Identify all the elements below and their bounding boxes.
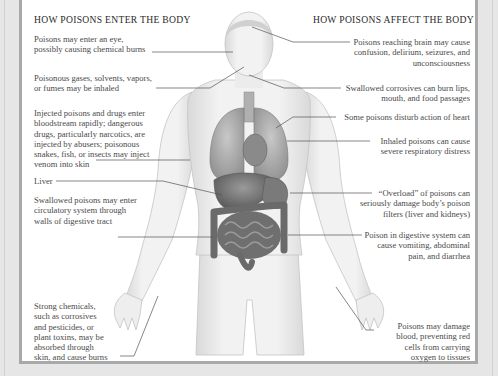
label-overload-effect: “Overload” of poisons can seriously dama…: [360, 188, 470, 219]
label-brain-effect: Poisons reaching brain may cause confusi…: [354, 37, 470, 68]
label-skin-absorption: Strong chemicals, such as corrosives and…: [34, 301, 108, 363]
label-inhaled-entry: Poisonous gases, solvents, vapors, or fu…: [34, 73, 152, 94]
heading-how-poisons-enter: HOW POISONS ENTER THE BODY: [34, 14, 191, 25]
label-swallowed-entry: Swallowed poisons may enter circulatory …: [34, 195, 137, 226]
label-digestive-effect: Poison in digestive system can cause vom…: [364, 230, 470, 261]
label-heart-effect: Some poisons disturb action of heart: [344, 112, 470, 122]
label-respiratory-effect: Inhaled poisons can cause severe respira…: [381, 136, 471, 157]
internal-organs: [210, 92, 288, 268]
heading-how-poisons-affect: HOW POISONS AFFECT THE BODY: [313, 14, 474, 25]
label-liver: Liver: [34, 176, 53, 186]
label-corrosives-effect: Swallowed corrosives can burn lips, mout…: [346, 83, 470, 104]
label-eye-entry: Poisons may enter an eye, possibly causi…: [34, 34, 145, 55]
label-injected-entry: Injected poisons and drugs enter bloodst…: [34, 108, 149, 170]
label-blood-effect: Poisons may damage blood, preventing red…: [396, 321, 470, 362]
